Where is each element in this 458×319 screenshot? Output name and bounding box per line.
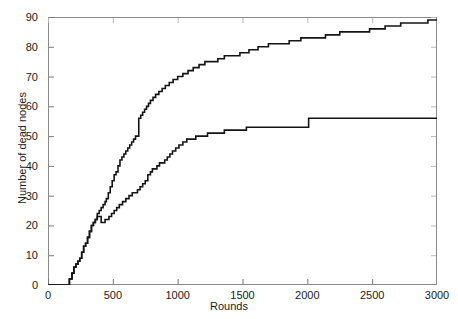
chart-figure: Number of dead nodes 0102030405060708090… bbox=[0, 0, 458, 319]
y-tick-label: 30 bbox=[0, 190, 38, 202]
series-line-upper-curve bbox=[48, 20, 437, 285]
y-axis-label: Number of dead nodes bbox=[16, 68, 28, 228]
y-tick-label: 80 bbox=[0, 41, 38, 53]
y-tick-label: 20 bbox=[0, 219, 38, 231]
y-tick-label: 50 bbox=[0, 130, 38, 142]
y-tick-label: 40 bbox=[0, 160, 38, 172]
chart-canvas bbox=[48, 17, 437, 285]
plot-area bbox=[48, 17, 437, 285]
y-tick-label: 0 bbox=[0, 279, 38, 291]
y-tick-label: 70 bbox=[0, 71, 38, 83]
y-tick-label: 10 bbox=[0, 249, 38, 261]
x-axis-label: Rounds bbox=[0, 300, 458, 312]
y-tick-label: 60 bbox=[0, 100, 38, 112]
y-tick-label: 90 bbox=[0, 11, 38, 23]
